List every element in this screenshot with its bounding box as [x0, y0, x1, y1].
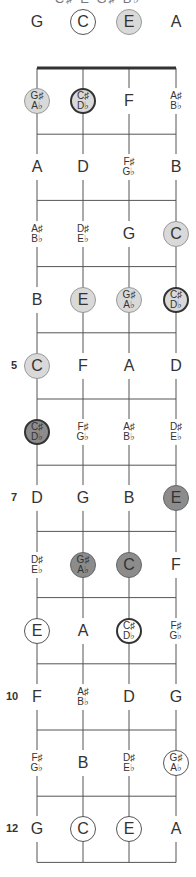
note-marker: F [70, 353, 96, 379]
note-label: G♭ [31, 763, 44, 773]
note-label: C [31, 358, 43, 374]
note-marker: C [163, 221, 189, 247]
note-label: A♭ [31, 101, 44, 111]
note-marker: C♯D♭ [116, 618, 142, 644]
note-label: C [77, 14, 89, 30]
note-label: A♭ [77, 565, 90, 575]
note-label: E♭ [31, 565, 43, 575]
note-marker: E [24, 618, 50, 644]
note-label: C [170, 226, 182, 242]
note-label: G♭ [123, 167, 136, 177]
note-marker: A [70, 618, 96, 644]
note-marker: F♯G♭ [24, 750, 50, 776]
note-marker: C [70, 9, 96, 35]
note-marker: B [70, 750, 96, 776]
note-marker: F♯G♭ [70, 419, 96, 445]
note-label: D♭ [170, 300, 182, 310]
note-label: A♭ [170, 763, 183, 773]
fret-number: 7 [11, 491, 17, 503]
note-marker: C♯D♭ [24, 419, 50, 445]
note-marker: E [116, 9, 142, 35]
note-label: C [123, 557, 135, 573]
note-marker: D [163, 353, 189, 379]
note-label: C [77, 821, 89, 837]
note-marker: C♯D♭ [163, 287, 189, 313]
note-marker: C♯D♭ [70, 88, 96, 114]
note-label: B [78, 755, 89, 771]
note-label: B♭ [123, 432, 135, 442]
fret-number: 12 [6, 822, 18, 834]
note-label: B [171, 159, 182, 175]
note-label: E [78, 292, 89, 308]
note-label: G [31, 821, 43, 837]
note-marker: C [24, 353, 50, 379]
note-marker: A [116, 353, 142, 379]
note-marker: F [24, 684, 50, 710]
note-label: D♭ [123, 631, 135, 641]
note-label: E♭ [123, 763, 135, 773]
note-label: D [31, 490, 43, 506]
note-label: E [171, 490, 182, 506]
note-marker: F [116, 88, 142, 114]
note-marker: C [116, 552, 142, 578]
note-marker: A [163, 9, 189, 35]
note-marker: G [24, 9, 50, 35]
note-marker: F♯G♭ [163, 618, 189, 644]
note-label: B♭ [77, 697, 89, 707]
note-marker: A♯B♭ [70, 684, 96, 710]
note-marker: D♯E♭ [24, 552, 50, 578]
note-marker: D [116, 684, 142, 710]
note-label: G♭ [170, 631, 183, 641]
fretboard-diagram: C♯ E G♯ B♭ GCEAG♯A♭C♯D♭FA♯B♭ADF♯G♭BA♯B♭D… [0, 0, 196, 877]
note-label: G♯ [77, 555, 90, 565]
note-marker: A♯B♭ [163, 88, 189, 114]
note-label: B♭ [170, 101, 182, 111]
note-marker: D♯E♭ [70, 221, 96, 247]
note-marker: F [163, 552, 189, 578]
fret-number: 5 [11, 359, 17, 371]
note-label: A [124, 358, 135, 374]
note-marker: G [163, 684, 189, 710]
note-label: A [78, 623, 89, 639]
note-label: F [32, 689, 42, 705]
note-label: E♭ [77, 234, 89, 244]
note-label: G [31, 14, 43, 30]
note-label: G [170, 689, 182, 705]
note-label: E [32, 623, 43, 639]
note-label: G [77, 490, 89, 506]
note-label: D [77, 159, 89, 175]
note-label: B [124, 490, 135, 506]
note-label: F [171, 557, 181, 573]
note-label: D♭ [31, 432, 43, 442]
note-label: A [32, 159, 43, 175]
note-label: D♯ [77, 224, 89, 234]
note-marker: A♯B♭ [116, 419, 142, 445]
note-label: B [32, 292, 43, 308]
note-marker: G♯A♭ [163, 750, 189, 776]
note-label: G♭ [77, 432, 90, 442]
note-label: E [124, 821, 135, 837]
note-label: A♯ [31, 224, 43, 234]
note-label: E♭ [170, 432, 182, 442]
note-marker: G♯A♭ [116, 287, 142, 313]
note-marker: D♯E♭ [163, 419, 189, 445]
note-marker: G♯A♭ [70, 552, 96, 578]
note-marker: D♯E♭ [116, 750, 142, 776]
note-label: D♭ [77, 101, 89, 111]
note-marker: G♯A♭ [24, 88, 50, 114]
note-label: D [170, 358, 182, 374]
note-marker: A♯B♭ [24, 221, 50, 247]
note-label: E [124, 14, 135, 30]
note-label: B♭ [31, 234, 43, 244]
note-label: D [123, 689, 135, 705]
fret-number: 10 [6, 690, 18, 702]
note-label: F [124, 93, 134, 109]
note-marker: B [24, 287, 50, 313]
note-marker: G [116, 221, 142, 247]
note-label: G [123, 226, 135, 242]
note-label: D♯ [31, 555, 43, 565]
note-label: F [78, 358, 88, 374]
note-label: A♭ [123, 300, 136, 310]
note-label: A [171, 14, 182, 30]
note-marker: E [70, 287, 96, 313]
